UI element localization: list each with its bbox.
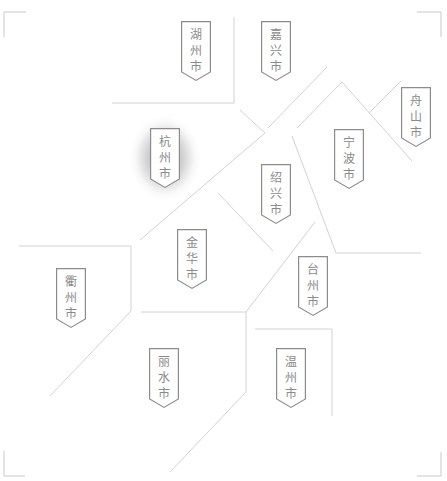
corner-bracket-bottom-right: [417, 452, 441, 476]
city-label: 嘉 兴 市: [261, 27, 291, 75]
city-label: 舟 山 市: [401, 93, 431, 141]
city-marker-hangzhou[interactable]: 杭 州 市: [150, 128, 180, 188]
boundary-lishui-wenzhou: [170, 312, 246, 472]
city-label: 杭 州 市: [150, 134, 180, 182]
city-marker-zhoushan[interactable]: 舟 山 市: [401, 87, 431, 147]
boundary-jinhua-taizhou: [141, 222, 315, 312]
city-label: 宁 波 市: [334, 135, 364, 183]
city-marker-huzhou[interactable]: 湖 州 市: [181, 21, 211, 81]
city-label: 丽 水 市: [149, 354, 179, 402]
city-marker-wenzhou[interactable]: 温 州 市: [276, 348, 306, 408]
city-label: 绍 兴 市: [261, 170, 291, 218]
city-marker-ningbo[interactable]: 宁 波 市: [334, 129, 364, 189]
city-marker-shaoxing[interactable]: 绍 兴 市: [261, 164, 291, 224]
city-marker-lishui[interactable]: 丽 水 市: [149, 348, 179, 408]
corner-bracket-top-left: [4, 12, 26, 37]
city-label: 衢 州 市: [56, 274, 86, 322]
corner-bracket-bottom-left: [4, 451, 25, 476]
zhejiang-city-map: 湖 州 市 嘉 兴 市 舟 山 市 杭 州 市 宁 波: [0, 0, 447, 481]
city-marker-taizhou[interactable]: 台 州 市: [298, 256, 328, 316]
city-marker-jinhua[interactable]: 金 华 市: [177, 229, 207, 289]
corner-bracket-top-right: [417, 12, 441, 37]
city-label: 温 州 市: [276, 354, 306, 402]
city-label: 湖 州 市: [181, 27, 211, 75]
boundary-jiaxing-hangzhou: [240, 110, 265, 133]
boundary-zhoushan: [369, 81, 401, 113]
city-label: 台 州 市: [298, 262, 328, 310]
boundary-huzhou: [112, 17, 234, 103]
city-marker-quzhou[interactable]: 衢 州 市: [56, 268, 86, 328]
city-marker-jiaxing[interactable]: 嘉 兴 市: [261, 21, 291, 81]
region-boundary-lines: [0, 0, 447, 481]
city-label: 金 华 市: [177, 235, 207, 283]
